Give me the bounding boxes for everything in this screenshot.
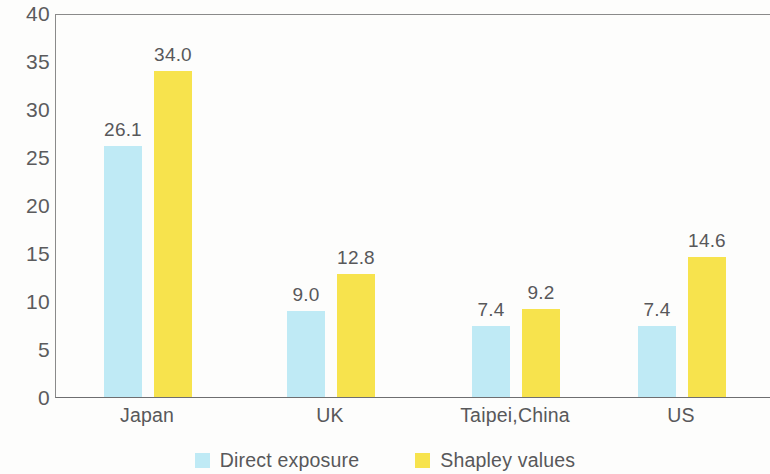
x-axis-tick-label: Taipei,China [460,404,570,427]
bar: 9.0 [287,311,325,397]
bar-value-label: 7.4 [643,299,670,321]
bar: 14.6 [688,257,726,397]
bar: 34.0 [154,71,192,397]
legend-swatch-icon [415,453,430,468]
bar: 9.2 [522,309,560,397]
bar-group: 26.134.0 [104,13,192,397]
y-axis-tick-label: 5 [6,338,50,362]
chart-legend: Direct exposureShapley values [0,449,770,472]
bar-value-label: 12.8 [337,247,375,269]
bar-group: 7.49.2 [472,13,560,397]
x-axis-tick-label: Japan [120,404,174,427]
y-axis-tick-label: 25 [6,146,50,170]
bar-value-label: 34.0 [154,44,192,66]
legend-label: Direct exposure [220,449,360,472]
y-axis-tick-label: 20 [6,194,50,218]
legend-item: Direct exposure [195,449,360,472]
bar-group: 7.414.6 [638,13,726,397]
plot-area: 26.134.09.012.87.49.27.414.6 [55,14,770,398]
y-axis-tick-label: 0 [6,386,50,410]
bar-value-label: 9.0 [292,284,319,306]
y-axis-tick-label: 30 [6,98,50,122]
x-axis-tick-label: UK [316,404,344,427]
y-axis-tick-label: 10 [6,290,50,314]
y-axis: 4035302520151050 [0,0,50,474]
bar: 26.1 [104,146,142,397]
y-axis-tick-label: 15 [6,242,50,266]
bar-group: 9.012.8 [287,13,375,397]
bar: 7.4 [638,326,676,397]
bar-value-label: 9.2 [527,282,554,304]
bar-value-label: 26.1 [104,119,142,141]
x-axis-tick-label: US [667,404,695,427]
y-axis-tick-label: 35 [6,50,50,74]
legend-item: Shapley values [415,449,575,472]
bar-value-label: 14.6 [688,230,726,252]
bar: 12.8 [337,274,375,397]
bar: 7.4 [472,326,510,397]
y-axis-tick-label: 40 [6,2,50,26]
legend-label: Shapley values [440,449,575,472]
bar-chart: 4035302520151050 26.134.09.012.87.49.27.… [0,0,770,474]
bar-value-label: 7.4 [477,299,504,321]
legend-swatch-icon [195,453,210,468]
